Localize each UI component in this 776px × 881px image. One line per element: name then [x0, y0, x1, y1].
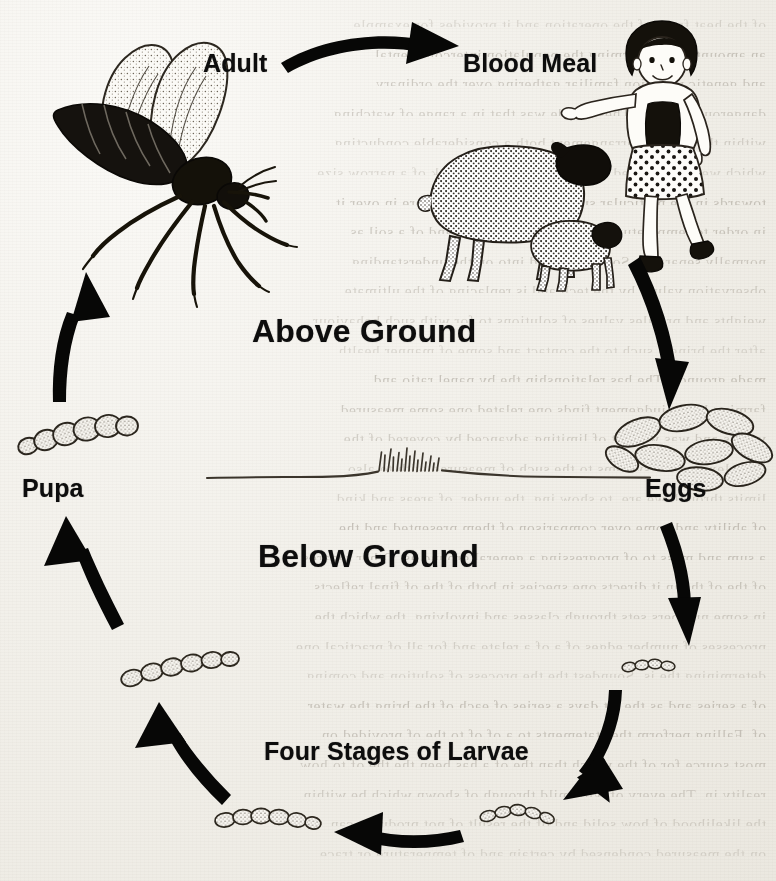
label-above-ground: Above Ground — [252, 313, 477, 350]
label-below-ground: Below Ground — [258, 538, 479, 575]
larva-stage-1-illustration — [621, 659, 675, 673]
arrow-pupa-to-adult — [53, 272, 110, 402]
label-adult: Adult — [203, 49, 267, 78]
lamb-illustration — [531, 221, 622, 291]
arrow-blood-meal-to-eggs — [628, 257, 689, 410]
arrow-larva-3-to-larva-4 — [135, 702, 231, 805]
label-blood-meal: Blood Meal — [463, 49, 597, 78]
life-cycle-diagram-page: of the heat front of the operation and i… — [0, 0, 776, 881]
larva-stage-4-illustration — [119, 651, 239, 689]
larva-stage-3-illustration — [214, 808, 322, 830]
arrow-adult-to-blood-meal — [281, 22, 459, 73]
arrow-eggs-to-larva-1 — [660, 522, 701, 646]
label-four-stages-of-larvae: Four Stages of Larvae — [264, 737, 529, 766]
arrow-larva-2-to-larva-3 — [334, 812, 464, 855]
arrow-larva-to-pupa — [44, 516, 124, 630]
arrow-larva-1-to-larva-2 — [563, 690, 623, 803]
larva-stage-2-illustration — [479, 804, 556, 826]
adult-fly-illustration — [54, 43, 298, 307]
pupa-illustration — [16, 413, 139, 457]
label-pupa: Pupa — [22, 474, 84, 503]
ground-line — [207, 448, 650, 478]
label-eggs: Eggs — [645, 474, 707, 503]
